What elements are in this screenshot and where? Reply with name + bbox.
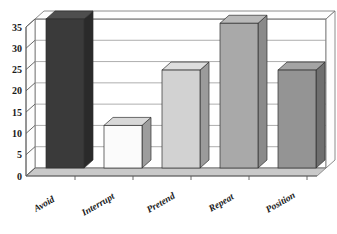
category-label-repeat: Repeat xyxy=(206,191,235,214)
bar-side-face xyxy=(142,117,151,168)
y-tick-label: 10 xyxy=(12,128,22,139)
bar-side-face xyxy=(258,15,267,168)
bar-repeat xyxy=(220,15,267,168)
plot-floor xyxy=(26,168,326,176)
y-tick-label: 30 xyxy=(12,43,22,54)
y-tick-label: 15 xyxy=(12,107,22,118)
y-tick-label: 25 xyxy=(12,64,22,75)
bar-front-face xyxy=(162,70,200,168)
category-label-position: Position xyxy=(264,190,297,215)
category-label-avoid: Avoid xyxy=(31,194,56,214)
bar-position xyxy=(278,62,325,168)
category-axis xyxy=(26,176,317,180)
y-tick-labels: 35 30 25 20 15 10 5 0 xyxy=(12,22,22,182)
bar-side-face xyxy=(200,62,209,168)
bar-front-face xyxy=(220,23,258,168)
bar-front-face xyxy=(278,70,316,168)
bar-front-face xyxy=(46,19,84,168)
plot-right-ledge xyxy=(326,11,335,168)
bar-side-face xyxy=(84,11,93,168)
bar-avoid xyxy=(46,11,93,168)
plot-left-wall xyxy=(26,19,35,176)
bar-pretend xyxy=(162,62,209,168)
bar-side-face xyxy=(316,62,325,168)
category-label-pretend: Pretend xyxy=(145,191,177,215)
y-tick-label: 35 xyxy=(12,22,22,33)
x-tick-labels: Avoid Interrupt Pretend Repeat Position xyxy=(31,190,297,218)
chart-canvas: 35 30 25 20 15 10 5 0 xyxy=(0,0,337,234)
bar-front-face xyxy=(104,125,142,168)
bar-chart-figure: 35 30 25 20 15 10 5 0 xyxy=(0,0,337,234)
y-tick-label: 0 xyxy=(17,171,22,182)
y-tick-label: 20 xyxy=(12,85,22,96)
bar-interrupt xyxy=(104,117,151,168)
y-tick-label: 5 xyxy=(17,149,22,160)
category-label-interrupt: Interrupt xyxy=(79,191,116,218)
